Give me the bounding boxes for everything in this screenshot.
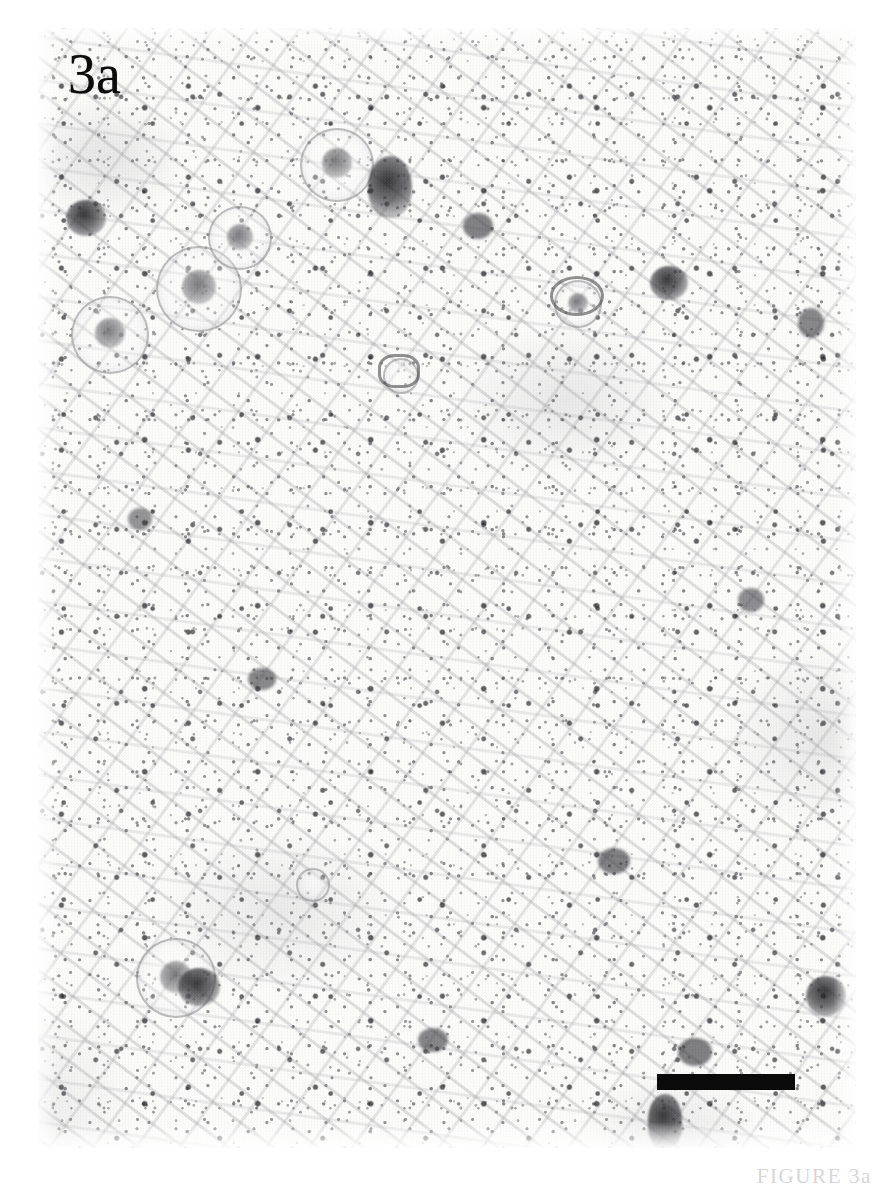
puncta-cluster-5 [128,508,152,530]
dark-soma-6 [806,976,846,1016]
dark-soma-1 [368,156,412,218]
micrograph-panel[interactable]: 3a [38,28,856,1148]
vessel-profile-1 [550,276,604,316]
soma-ring-1 [156,246,242,332]
scan-grain-overlay [38,28,856,1148]
puncta-cluster-2 [738,588,764,612]
figure-caption: FIGURE 3a [0,1166,896,1193]
dark-soma-2 [66,200,106,236]
nucleus [227,224,253,250]
soma-ring-2 [208,206,272,270]
puncta-cluster-3 [248,668,276,690]
dark-soma-5 [648,1094,682,1148]
soma-ring-4 [300,128,374,202]
dark-soma-3 [650,266,688,300]
puncta-cluster-7 [418,1028,448,1052]
edge-vignette [38,28,856,1148]
puncta-cluster-8 [678,1038,712,1066]
figure-root: 3a FIGURE 3a [0,0,896,1193]
panel-label-3a: 3a [68,46,121,102]
dark-soma-4 [178,968,220,1006]
nucleus [182,270,216,304]
neuropil-texture-filaments [38,28,856,1148]
scale-bar [657,1074,795,1090]
figure-caption-text: FIGURE 3a [757,1166,872,1187]
vessel-profile-2 [378,354,420,388]
nucleus [95,318,125,348]
puncta-cluster-6 [798,308,824,338]
neuropil-texture-mottle [38,28,856,1148]
soma-ring-3 [71,296,149,374]
neuropil-texture-puncta [38,28,856,1148]
soma-ring-8 [296,868,330,902]
neuropil-texture-base [38,28,856,1148]
nucleus [322,148,352,178]
puncta-cluster-1 [463,213,493,239]
puncta-cluster-4 [598,848,630,874]
